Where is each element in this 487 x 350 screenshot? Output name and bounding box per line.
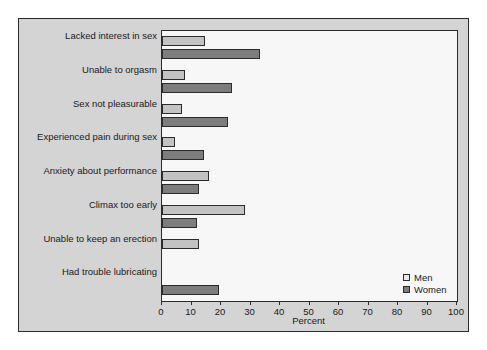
category-label: Lacked interest in sex (19, 31, 157, 41)
category-label: Sex not pleasurable (19, 99, 157, 109)
bar-men (162, 104, 182, 114)
category-label: Unable to orgasm (19, 65, 157, 75)
category-row: Lacked interest in sex (162, 31, 457, 65)
bar-women (162, 150, 204, 160)
category-row: Sex not pleasurable (162, 99, 457, 133)
x-axis-tick (456, 301, 457, 305)
legend-entry-women: Women (403, 283, 447, 295)
x-axis-tick (309, 301, 310, 305)
bar-men (162, 70, 185, 80)
x-axis-tick (191, 301, 192, 305)
bar-women (162, 285, 219, 295)
x-axis-tick (397, 301, 398, 305)
category-row: Experienced pain during sex (162, 132, 457, 166)
x-axis-tick (338, 301, 339, 305)
legend-entry-men: Men (403, 271, 447, 283)
bar-women (162, 184, 199, 194)
x-axis-tick (427, 301, 428, 305)
category-label: Anxiety about performance (19, 166, 157, 176)
chart-figure: Lacked interest in sexUnable to orgasmSe… (18, 18, 469, 332)
category-row: Unable to orgasm (162, 65, 457, 99)
category-row: Climax too early (162, 200, 457, 234)
x-axis-tick (220, 301, 221, 305)
x-axis-title: Percent (161, 315, 456, 326)
category-row: Anxiety about performance (162, 166, 457, 200)
legend-swatch-men (403, 274, 410, 281)
plot-area: Lacked interest in sexUnable to orgasmSe… (161, 30, 458, 302)
bar-women (162, 49, 260, 59)
category-label: Experienced pain during sex (19, 132, 157, 142)
bar-women (162, 218, 197, 228)
legend-label: Men (414, 272, 432, 283)
bar-men (162, 36, 205, 46)
x-axis-tick (250, 301, 251, 305)
bar-men (162, 171, 209, 181)
bar-men (162, 137, 175, 147)
category-label: Unable to keep an erection (19, 234, 157, 244)
x-axis: 0102030405060708090100 (161, 301, 456, 302)
category-label: Had trouble lubricating (19, 267, 157, 277)
x-axis-tick (279, 301, 280, 305)
bar-women (162, 117, 228, 127)
category-row: Unable to keep an erection (162, 234, 457, 268)
legend-swatch-women (403, 286, 410, 293)
legend-label: Women (414, 284, 447, 295)
category-label: Climax too early (19, 200, 157, 210)
bar-women (162, 83, 232, 93)
bar-men (162, 205, 245, 215)
x-axis-tick (368, 301, 369, 305)
bar-men (162, 239, 199, 249)
chart-legend: MenWomen (403, 271, 447, 295)
x-axis-tick (161, 301, 162, 305)
